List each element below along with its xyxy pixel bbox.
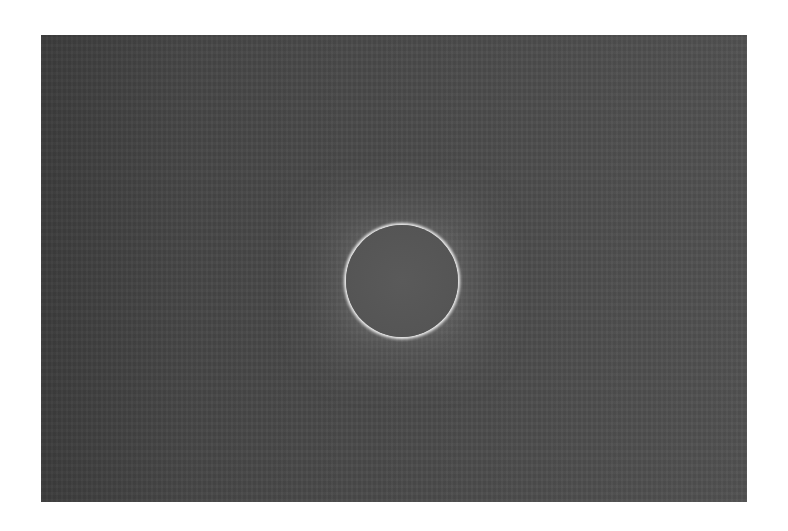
moon-disk (346, 225, 458, 337)
eclipse-photo (41, 35, 747, 502)
